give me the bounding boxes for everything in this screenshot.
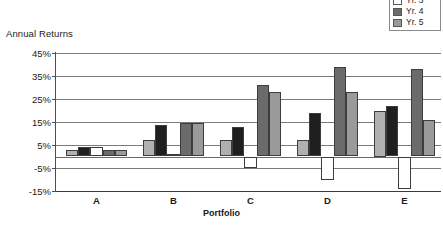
bar-a-yr2 — [78, 147, 90, 156]
bar-group-a — [66, 53, 127, 191]
bar-b-yr1 — [143, 140, 155, 156]
bar-d-yr5 — [346, 92, 358, 156]
y-axis-tick-label: 35% — [32, 71, 51, 82]
bar-series-container — [56, 53, 441, 191]
bar-b-yr3 — [167, 154, 179, 156]
y-axis-title: Annual Returns — [6, 28, 73, 39]
y-axis-tick-label: 5% — [37, 140, 51, 151]
bar-e-yr2 — [386, 106, 398, 157]
legend-swatch-icon — [393, 19, 402, 27]
legend-item-label: Yr. 3 — [406, 0, 423, 5]
bar-a-yr3 — [90, 147, 102, 156]
legend-item-label: Yr. 5 — [406, 18, 423, 27]
x-axis-label-e: E — [401, 195, 407, 206]
bar-e-yr5 — [423, 120, 435, 157]
bar-d-yr3 — [321, 157, 333, 180]
x-axis-label-b: B — [170, 195, 177, 206]
bar-a-yr4 — [103, 150, 115, 157]
y-axis-tick-label: -5% — [34, 163, 51, 174]
legend-swatch-icon — [393, 8, 402, 16]
y-axis-tick-label: -15% — [29, 186, 51, 197]
y-axis-tick-label: 25% — [32, 94, 51, 105]
legend-item-label: Yr. 4 — [406, 7, 423, 16]
bar-b-yr5 — [192, 123, 204, 156]
bar-group-e — [374, 53, 435, 191]
bar-e-yr4 — [411, 69, 423, 156]
bar-e-yr3 — [398, 157, 410, 189]
y-axis-tick-label: 45% — [32, 48, 51, 59]
bar-c-yr1 — [220, 140, 232, 156]
bar-group-d — [297, 53, 358, 191]
bar-b-yr4 — [180, 123, 192, 156]
bar-c-yr3 — [244, 157, 256, 169]
x-axis-label-d: D — [324, 195, 331, 206]
bar-group-b — [143, 53, 204, 191]
y-axis-tick-mark — [52, 191, 56, 192]
bar-c-yr5 — [269, 92, 281, 156]
bar-d-yr2 — [309, 113, 321, 157]
bar-d-yr4 — [334, 67, 346, 157]
x-axis-title: Portfolio — [0, 208, 443, 218]
bar-d-yr1 — [297, 140, 309, 156]
bar-e-yr1 — [374, 111, 386, 157]
bar-a-yr5 — [115, 150, 127, 157]
bar-group-c — [220, 53, 281, 191]
y-axis-tick-label: 15% — [32, 117, 51, 128]
legend-item-yr5[interactable]: Yr. 5 — [393, 17, 437, 28]
legend-item-yr4[interactable]: Yr. 4 — [393, 6, 437, 17]
x-axis-label-c: C — [247, 195, 254, 206]
bar-a-yr1 — [66, 150, 78, 157]
x-axis-label-a: A — [93, 195, 100, 206]
bar-c-yr2 — [232, 127, 244, 157]
legend: Yr. 2Yr. 3Yr. 4Yr. 5 — [389, 0, 441, 31]
legend-swatch-icon — [393, 0, 402, 5]
plot-area: 45%35%25%15%5%-5%-15% — [56, 53, 441, 191]
bar-b-yr2 — [155, 125, 167, 156]
bar-c-yr4 — [257, 85, 269, 156]
x-axis-line — [55, 191, 441, 192]
